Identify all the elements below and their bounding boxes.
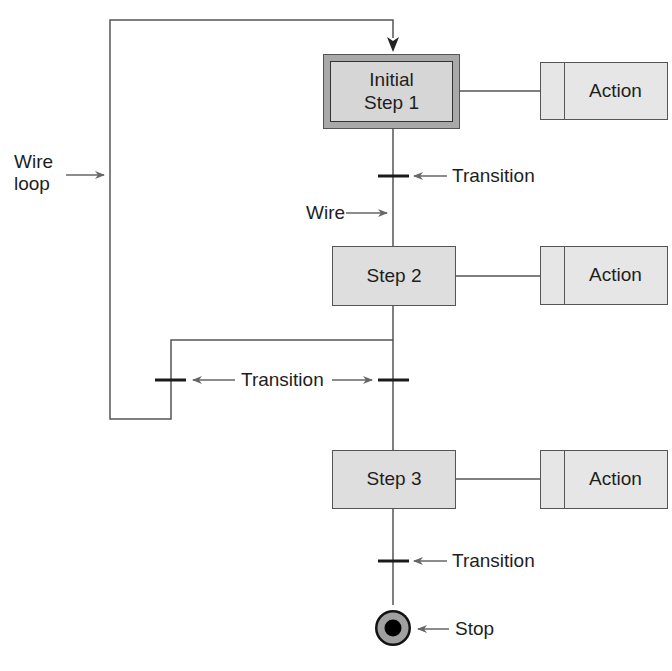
action-box-step-3[interactable]: Action xyxy=(540,450,668,509)
wire-loop-label-line1: Wire xyxy=(14,151,53,173)
stop-symbol xyxy=(375,610,411,646)
wire-loop-label: Wire loop xyxy=(14,151,53,195)
wire-label: Wire xyxy=(306,202,345,224)
action-box-step-2[interactable]: Action xyxy=(540,246,668,305)
main-wire xyxy=(171,128,393,605)
transition-label-1: Transition xyxy=(452,165,535,187)
wire-loop-entry-arrow-icon xyxy=(387,37,399,52)
action-qualifier-cell xyxy=(541,63,565,119)
action-label: Action xyxy=(564,63,667,119)
step-2-label: Step 2 xyxy=(367,265,422,288)
action-connectors xyxy=(456,91,541,479)
initial-step-1-inner: Initial Step 1 xyxy=(330,61,453,122)
action-label: Action xyxy=(564,451,667,508)
action-label: Action xyxy=(564,247,667,304)
action-box-step-1[interactable]: Action xyxy=(540,62,668,120)
wire-loop-label-line2: loop xyxy=(14,173,53,195)
step-3[interactable]: Step 3 xyxy=(332,450,456,509)
stop-label: Stop xyxy=(455,618,494,640)
step-3-label: Step 3 xyxy=(367,468,422,491)
initial-step-1[interactable]: Initial Step 1 xyxy=(323,54,460,129)
initial-step-1-label-line2: Step 1 xyxy=(364,92,419,115)
action-qualifier-cell xyxy=(541,451,565,508)
step-2[interactable]: Step 2 xyxy=(332,246,456,306)
initial-step-1-label-line1: Initial xyxy=(369,69,413,92)
action-qualifier-cell xyxy=(541,247,565,304)
transition-label-branch: Transition xyxy=(241,369,324,391)
transition-label-3: Transition xyxy=(452,550,535,572)
